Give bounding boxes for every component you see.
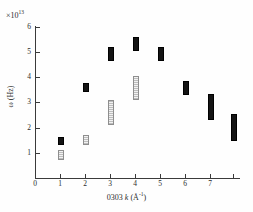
data-marker	[108, 100, 114, 125]
data-marker	[108, 47, 114, 61]
data-marker	[83, 83, 89, 92]
data-marker	[133, 76, 139, 100]
data-marker	[58, 150, 64, 160]
data-marker	[58, 137, 64, 145]
data-marker	[83, 135, 89, 145]
data-marker	[133, 37, 139, 51]
dispersion-plot-figure: ×1013 ω (Hz) 12345601234567 0303 k (Å-1)	[0, 0, 253, 212]
data-marker	[231, 114, 237, 141]
data-marker	[183, 81, 189, 95]
x-axis-unit-exponent: -1	[139, 191, 144, 197]
data-marker	[208, 94, 214, 120]
x-axis-symbol: k	[125, 193, 129, 202]
plot-area	[0, 0, 253, 212]
x-axis-title: 0303 k (Å-1)	[0, 191, 253, 202]
data-marker	[158, 47, 164, 61]
